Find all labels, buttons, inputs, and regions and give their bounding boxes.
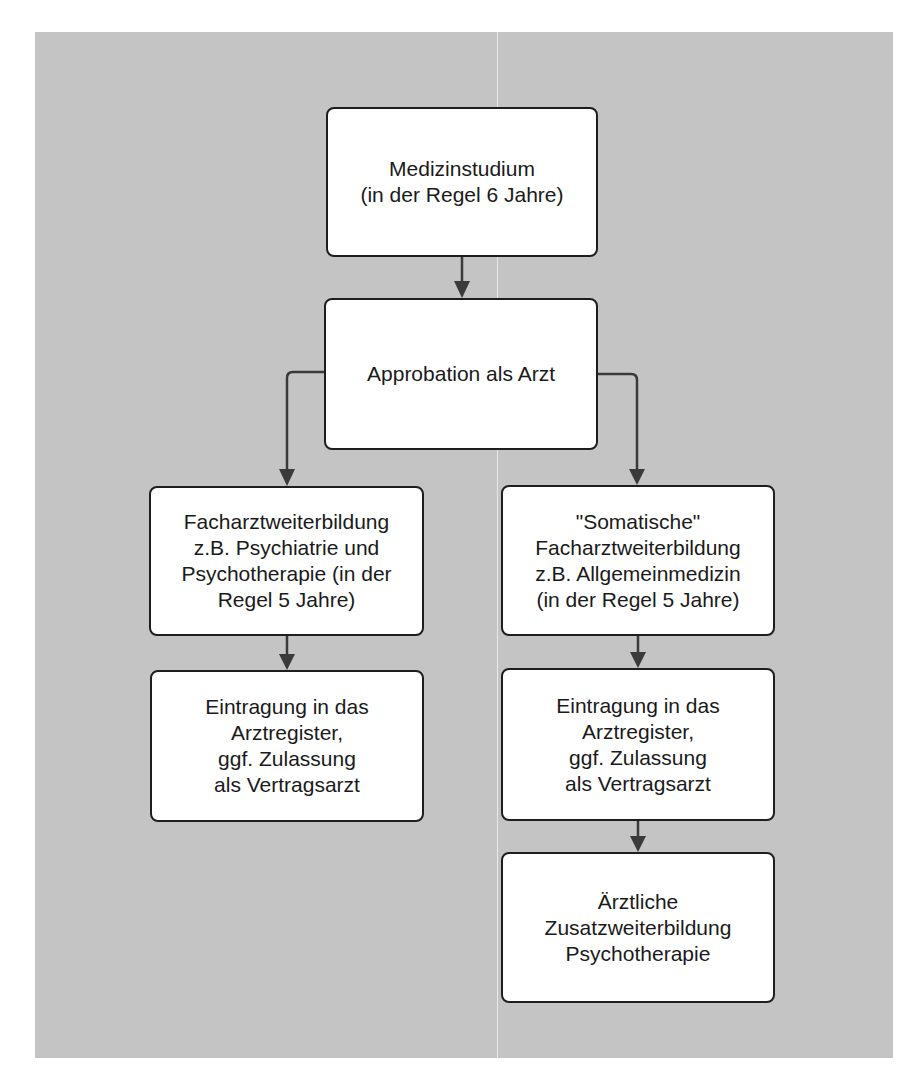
node-label: Eintragung in das Arztregister, ggf. Zul…	[205, 694, 368, 798]
node-label: Eintragung in das Arztregister, ggf. Zul…	[556, 693, 719, 797]
node-medizinstudium: Medizinstudium (in der Regel 6 Jahre)	[326, 107, 598, 257]
node-label: Facharztweiterbildung z.B. Psychiatrie u…	[181, 509, 391, 613]
node-label: "Somatische" Facharztweiterbildung z.B. …	[535, 509, 740, 613]
node-eintragung-left: Eintragung in das Arztregister, ggf. Zul…	[150, 670, 424, 822]
node-label: Ärztliche Zusatzweiterbildung Psychother…	[545, 889, 732, 967]
node-eintragung-right: Eintragung in das Arztregister, ggf. Zul…	[501, 668, 775, 821]
node-facharzt-psychiatrie: Facharztweiterbildung z.B. Psychiatrie u…	[149, 486, 424, 636]
node-label: Medizinstudium (in der Regel 6 Jahre)	[360, 156, 563, 208]
node-label: Approbation als Arzt	[367, 361, 555, 387]
node-approbation: Approbation als Arzt	[324, 298, 598, 450]
node-zusatzweiterbildung: Ärztliche Zusatzweiterbildung Psychother…	[501, 852, 775, 1003]
node-facharzt-somatisch: "Somatische" Facharztweiterbildung z.B. …	[501, 485, 775, 636]
